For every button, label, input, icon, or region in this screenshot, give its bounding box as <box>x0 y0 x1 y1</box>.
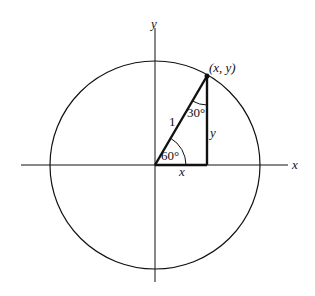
angle-30-label: 30° <box>187 105 205 120</box>
vertical-leg-label: y <box>208 125 216 140</box>
y-axis-label: y <box>149 16 157 31</box>
unit-circle-diagram: y x (x, y) 1 60° 30° y x <box>0 0 315 296</box>
hypotenuse-label: 1 <box>169 114 176 129</box>
x-axis-label: x <box>291 157 298 172</box>
horizontal-leg-label: x <box>178 164 185 179</box>
angle-60-label: 60° <box>161 148 179 163</box>
point-label: (x, y) <box>209 60 236 75</box>
